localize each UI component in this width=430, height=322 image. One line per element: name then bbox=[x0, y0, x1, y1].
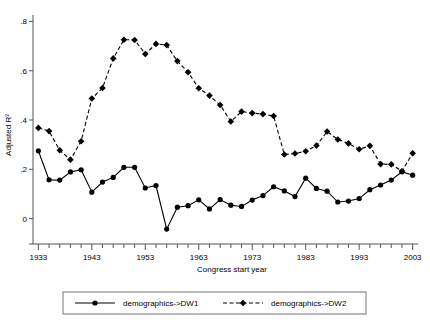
chart-legend: demographics->DW1demographics->DW2 bbox=[63, 292, 366, 314]
data-point bbox=[111, 175, 116, 180]
data-point bbox=[218, 197, 223, 202]
data-point bbox=[175, 205, 180, 210]
y-axis-tick-label: .4 bbox=[20, 116, 27, 125]
data-point bbox=[367, 187, 372, 192]
data-point bbox=[185, 203, 190, 208]
y-axis-tick-label: .2 bbox=[20, 165, 27, 174]
data-point bbox=[79, 167, 84, 172]
data-point bbox=[196, 197, 201, 202]
data-point bbox=[282, 188, 287, 193]
data-point bbox=[324, 189, 329, 194]
data-point bbox=[143, 185, 148, 190]
y-axis-tick-label: 0 bbox=[23, 215, 28, 224]
legend-label: demographics->DW2 bbox=[271, 299, 347, 308]
data-point bbox=[346, 198, 351, 203]
x-axis-tick-label: 1953 bbox=[136, 253, 154, 262]
x-axis-tick-label: 1983 bbox=[297, 253, 315, 262]
data-point bbox=[250, 197, 255, 202]
data-point bbox=[89, 190, 94, 195]
x-axis-tick-label: 1933 bbox=[29, 253, 47, 262]
y-axis-tick-label: .8 bbox=[20, 17, 27, 26]
data-point bbox=[239, 204, 244, 209]
x-axis-title: Congress start year bbox=[197, 265, 267, 274]
data-point bbox=[121, 165, 126, 170]
x-axis-tick-label: 2003 bbox=[404, 253, 422, 262]
data-point bbox=[207, 206, 212, 211]
data-point bbox=[260, 193, 265, 198]
data-point bbox=[153, 183, 158, 188]
data-point bbox=[36, 148, 41, 153]
data-point bbox=[271, 184, 276, 189]
adjusted-r2-line-chart: Adjusted R² Congress start year 0.2.4.6.… bbox=[0, 0, 430, 322]
data-point bbox=[46, 177, 51, 182]
data-point bbox=[303, 176, 308, 181]
data-point bbox=[378, 182, 383, 187]
data-point bbox=[292, 194, 297, 199]
chart-figure: Adjusted R² Congress start year 0.2.4.6.… bbox=[0, 0, 430, 322]
data-point bbox=[335, 199, 340, 204]
x-axis-tick-label: 1963 bbox=[190, 253, 208, 262]
data-point bbox=[314, 186, 319, 191]
legend-marker bbox=[92, 300, 97, 305]
data-point bbox=[100, 179, 105, 184]
x-axis-tick-label: 1943 bbox=[83, 253, 101, 262]
legend-label: demographics->DW1 bbox=[123, 299, 199, 308]
data-point bbox=[132, 165, 137, 170]
y-axis-tick-label: .6 bbox=[20, 67, 27, 76]
data-point bbox=[57, 177, 62, 182]
data-point bbox=[228, 203, 233, 208]
y-axis-title: Adjusted R² bbox=[4, 114, 13, 156]
data-point bbox=[389, 177, 394, 182]
data-point bbox=[410, 173, 415, 178]
x-axis-tick-label: 1993 bbox=[350, 253, 368, 262]
data-point bbox=[68, 169, 73, 174]
data-point bbox=[357, 196, 362, 201]
data-point bbox=[164, 227, 169, 232]
x-axis-tick-label: 1973 bbox=[243, 253, 261, 262]
